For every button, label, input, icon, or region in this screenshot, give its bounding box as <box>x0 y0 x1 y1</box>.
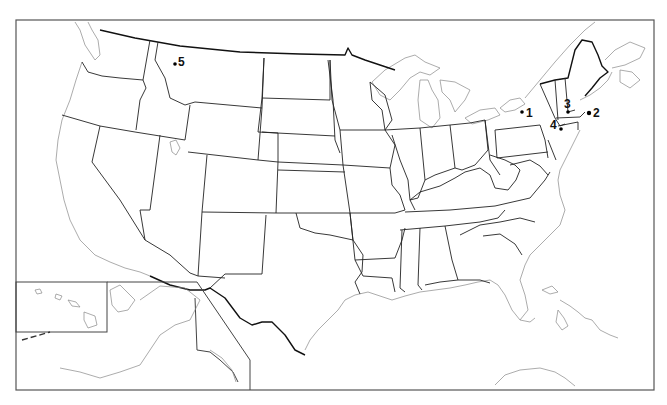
map-frame <box>16 20 654 390</box>
marker-4-dot <box>559 127 563 131</box>
marker-4-label: 4 <box>550 118 557 132</box>
us-outline-map: 1 2 3 4 5 <box>0 0 667 405</box>
marker-3-label: 3 <box>564 97 571 111</box>
marker-5-label: 5 <box>178 55 185 69</box>
marker-1-dot <box>520 110 524 114</box>
marker-2-label: 2 <box>593 106 600 120</box>
marker-5-dot <box>173 62 177 66</box>
marker-1-label: 1 <box>526 106 533 120</box>
marker-2-dot <box>587 111 591 115</box>
